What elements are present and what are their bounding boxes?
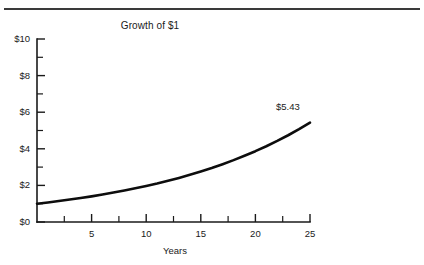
figure-container: Growth of $1 [0,0,424,265]
x-tick-label-10: 10 [131,228,161,239]
x-axis-minor-ticks [64,216,282,222]
growth-curve [37,123,310,204]
y-tick-label-2: $2 [0,179,30,190]
endpoint-value-annotation: $5.43 [276,101,300,112]
y-tick-label-4: $4 [0,143,30,154]
y-tick-label-10: $10 [0,33,30,44]
y-tick-label-8: $8 [0,70,30,81]
x-axis-major-ticks [92,214,310,222]
plot-area [0,0,424,265]
y-axis-minor-ticks [37,57,43,203]
y-tick-label-6: $6 [0,106,30,117]
x-tick-label-5: 5 [77,228,107,239]
x-tick-label-25: 25 [295,228,325,239]
x-tick-label-15: 15 [186,228,216,239]
y-tick-label-0: $0 [0,216,30,227]
x-axis-title: Years [145,245,205,256]
x-tick-label-20: 20 [240,228,270,239]
